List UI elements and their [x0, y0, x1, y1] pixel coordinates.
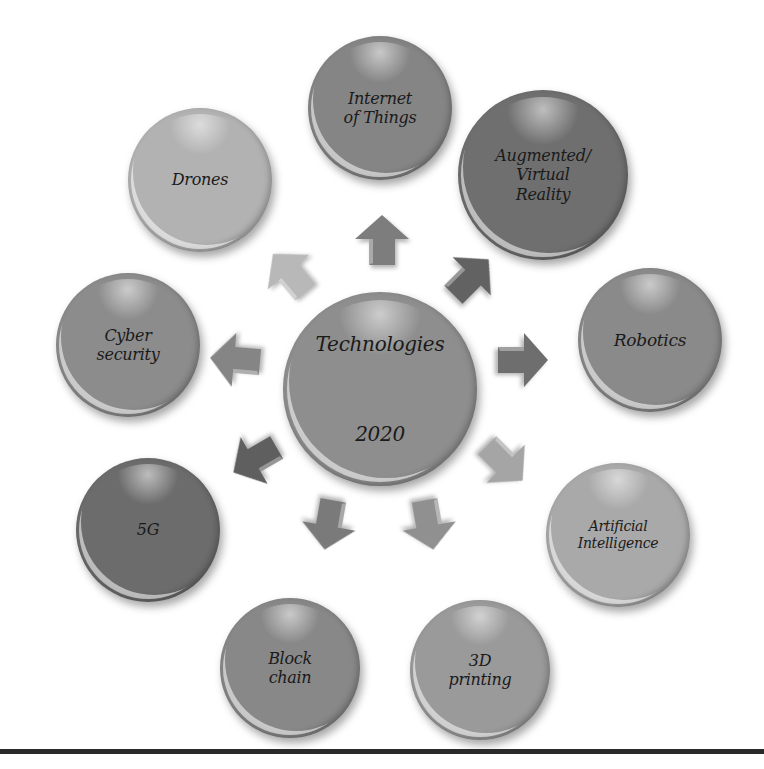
node-label: Artificial Intelligence [578, 518, 659, 552]
arrow-to-ar-vr-icon [434, 240, 508, 314]
node-blockchain: Block chain [220, 598, 360, 738]
center-year: 2020 [316, 422, 445, 446]
center-node-technologies-2020: Technologies 2020 [283, 292, 477, 486]
arrow-to-5g-icon [220, 424, 290, 496]
node-label: Augmented/ Virtual Reality [495, 146, 591, 204]
node-label: Robotics [614, 330, 686, 350]
bottom-divider [0, 749, 764, 754]
node-label: 3D printing [448, 651, 511, 689]
arrow-to-robotics-icon [498, 333, 548, 387]
arrow-to-cyber-security-icon [208, 331, 263, 389]
node-ar-vr: Augmented/ Virtual Reality [458, 90, 628, 260]
node-label: 5G [137, 520, 159, 539]
center-node-label: Technologies 2020 [316, 308, 445, 470]
center-title: Technologies [316, 332, 445, 356]
arrow-to-iot-icon [355, 215, 409, 265]
node-label: Internet of Things [344, 89, 417, 127]
node-robotics: Robotics [578, 268, 722, 412]
arrow-to-drones-icon [252, 236, 326, 309]
arrow-to-3d-printing-icon [398, 496, 460, 555]
node-iot: Internet of Things [308, 36, 452, 180]
node-drones: Drones [128, 108, 272, 252]
technologies-2020-diagram: Internet of ThingsAugmented/ Virtual Rea… [0, 0, 764, 769]
node-label: Drones [172, 170, 228, 189]
node-label: Block chain [268, 649, 312, 687]
node-cyber-security: Cyber security [56, 273, 200, 417]
node-5g: 5G [76, 458, 220, 602]
node-3d-printing: 3D printing [410, 600, 550, 740]
node-label: Cyber security [97, 326, 160, 364]
node-ai: Artificial Intelligence [546, 463, 690, 607]
arrow-to-ai-icon [468, 426, 542, 500]
arrow-to-blockchain-icon [298, 496, 360, 555]
